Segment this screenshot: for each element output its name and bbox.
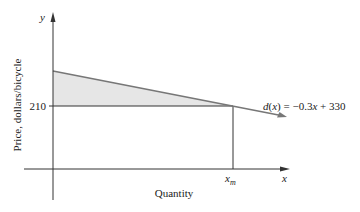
consumer-surplus-chart: y x 210 xm Quantity Price, dollars/bicyc…	[0, 0, 360, 212]
y-axis-symbol: y	[39, 11, 45, 23]
demand-equation-label: d(x) = −0.3x + 330	[263, 100, 346, 113]
y-axis-title: Price, dollars/bicycle	[11, 58, 23, 151]
x-axis-arrow-icon	[280, 167, 290, 172]
tick-label-xm: xm	[224, 172, 236, 187]
x-axis-symbol: x	[281, 172, 287, 184]
x-axis-title: Quantity	[155, 187, 194, 199]
demand-arrowhead-icon	[277, 112, 287, 118]
tick-label-210: 210	[30, 100, 47, 112]
y-axis-arrow-icon	[51, 12, 56, 22]
